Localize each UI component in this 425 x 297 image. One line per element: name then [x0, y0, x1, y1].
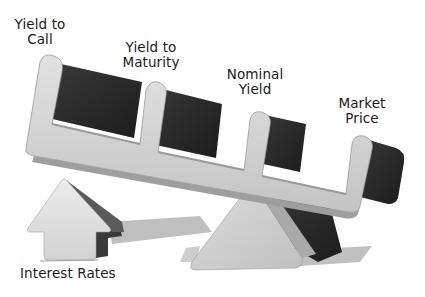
bond-seesaw-diagram: Yield to Call Yield to Maturity Nominal …	[0, 0, 425, 297]
label-interest-rates: Interest Rates	[20, 266, 130, 281]
label-nominal-yield: Nominal Yield	[222, 67, 288, 97]
up-arrow-icon	[27, 179, 124, 261]
label-yield-to-call: Yield to Call	[10, 17, 70, 47]
label-yield-to-maturity: Yield to Maturity	[116, 40, 186, 70]
label-market-price: Market Price	[334, 96, 390, 126]
